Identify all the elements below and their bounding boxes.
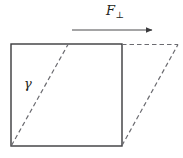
sheared-right-edge	[122, 45, 178, 146]
force-symbol: F	[106, 3, 115, 18]
force-subscript: ⊥	[116, 10, 124, 20]
shear-deformation-figure: F⊥ γ	[0, 0, 183, 158]
shear-angle-diagonal	[12, 45, 69, 146]
shear-angle-label: γ	[24, 77, 32, 90]
undeformed-square	[11, 44, 122, 146]
force-label: F⊥	[106, 4, 124, 20]
